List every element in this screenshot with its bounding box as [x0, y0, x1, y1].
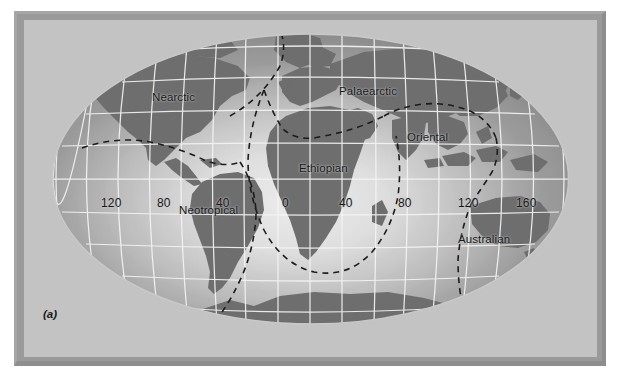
land-japan	[510, 80, 528, 100]
land-siberia-ne	[494, 46, 542, 74]
map-stage: Nearctic Palaearctic Oriental Ethiopian …	[24, 20, 597, 357]
world-map-graphic	[24, 20, 597, 357]
figure-panel: Nearctic Palaearctic Oriental Ethiopian …	[0, 0, 620, 379]
land-alaska	[62, 64, 104, 90]
land-new-zealand	[562, 220, 576, 240]
figure-caption: (a)	[43, 308, 57, 320]
map-panel: Nearctic Palaearctic Oriental Ethiopian …	[24, 20, 597, 357]
